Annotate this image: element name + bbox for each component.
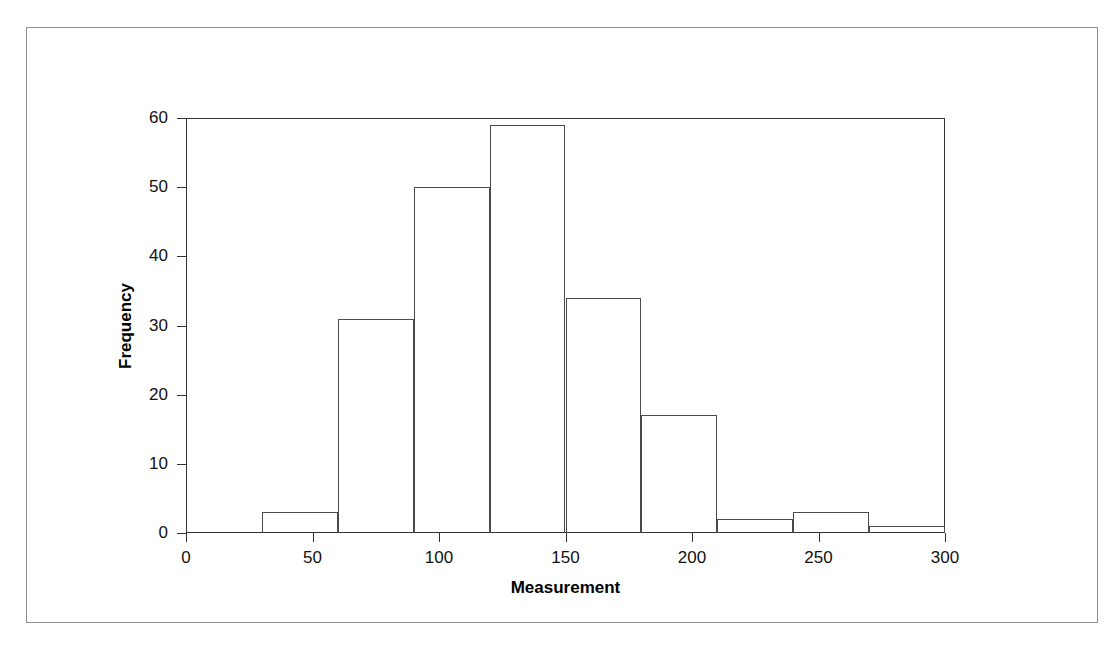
x-tick-label: 0	[181, 548, 190, 568]
x-tick-label: 300	[931, 548, 959, 568]
y-tick-label: 50	[122, 177, 168, 197]
x-tick-mark	[945, 533, 946, 542]
y-tick-mark	[177, 395, 186, 396]
x-tick-mark	[313, 533, 314, 542]
histogram-bar	[262, 512, 338, 533]
x-tick-mark	[819, 533, 820, 542]
y-tick-mark	[177, 326, 186, 327]
y-tick-mark	[177, 118, 186, 119]
histogram-bar	[869, 526, 945, 533]
histogram-bar	[793, 512, 869, 533]
x-tick-label: 100	[425, 548, 453, 568]
histogram-bar	[338, 319, 414, 533]
x-tick-mark	[186, 533, 187, 542]
histogram-bar	[717, 519, 793, 533]
y-tick-mark	[177, 464, 186, 465]
x-tick-mark	[692, 533, 693, 542]
x-tick-mark	[566, 533, 567, 542]
histogram-bar	[641, 415, 717, 533]
y-tick-mark	[177, 533, 186, 534]
x-tick-mark	[439, 533, 440, 542]
x-tick-label: 50	[303, 548, 322, 568]
x-axis-title: Measurement	[0, 578, 1120, 598]
x-tick-label: 200	[678, 548, 706, 568]
x-tick-label: 150	[551, 548, 579, 568]
y-tick-label: 60	[122, 108, 168, 128]
histogram-bar	[566, 298, 642, 533]
histogram-chart: 0102030405060 050100150200250300 Frequen…	[0, 0, 1120, 658]
x-tick-label: 250	[804, 548, 832, 568]
histogram-bar	[414, 187, 490, 533]
y-tick-label: 0	[122, 523, 168, 543]
histogram-bar	[490, 125, 566, 533]
y-axis-title: Frequency	[116, 256, 136, 396]
y-tick-mark	[177, 256, 186, 257]
y-tick-mark	[177, 187, 186, 188]
y-tick-label: 10	[122, 454, 168, 474]
